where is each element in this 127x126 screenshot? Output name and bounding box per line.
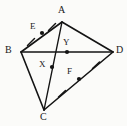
point-dot-f — [77, 77, 81, 81]
point-label-x: X — [39, 59, 46, 69]
vertex-label-c: C — [40, 112, 47, 122]
point-label-f: F — [67, 66, 72, 76]
segment-b-a — [21, 22, 62, 52]
vertex-label-d: D — [116, 45, 123, 55]
point-dot-e — [40, 31, 44, 35]
point-dot-y — [65, 50, 69, 54]
geometry-canvas — [0, 0, 127, 126]
point-label-y: Y — [63, 37, 70, 47]
vertex-label-b: B — [5, 45, 12, 55]
point-label-e: E — [30, 21, 36, 31]
geometry-figure: A B D C E Y X F — [0, 0, 127, 126]
point-dot-x — [50, 65, 54, 69]
vertex-label-a: A — [58, 5, 65, 15]
